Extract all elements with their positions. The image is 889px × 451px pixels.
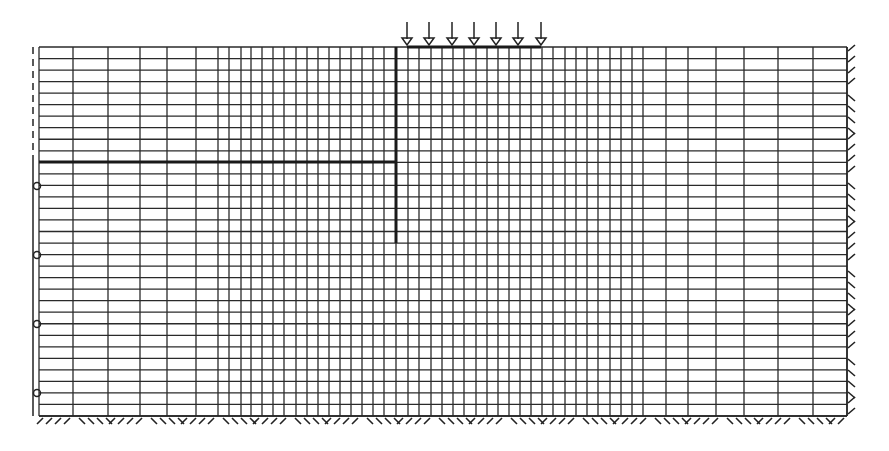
hatch-mark <box>241 418 247 424</box>
hatch-mark <box>848 106 855 112</box>
hatch-mark <box>848 45 855 51</box>
hatch-mark <box>478 418 484 424</box>
down-arrow-icon <box>447 22 457 45</box>
hatch-mark <box>559 418 565 424</box>
hatch-mark <box>848 397 855 403</box>
down-arrow-icon <box>469 22 479 45</box>
hatch-mark <box>448 418 454 424</box>
hatch-mark <box>313 418 319 424</box>
down-arrow-icon <box>491 22 501 45</box>
hatch-mark <box>745 418 751 424</box>
hatch-mark <box>848 232 855 238</box>
hatch-mark <box>46 418 52 424</box>
hatch-mark <box>622 418 628 424</box>
hatch-mark <box>848 370 855 376</box>
hatch-mark <box>848 282 855 288</box>
hatch-mark <box>520 418 526 424</box>
strip-load-arrows <box>402 22 546 47</box>
hatch-mark <box>848 205 855 211</box>
hatch-mark <box>694 418 700 424</box>
down-arrow-icon <box>513 22 523 45</box>
hatch-mark <box>848 155 855 161</box>
hatch-mark <box>151 418 157 424</box>
hatch-mark <box>664 418 670 424</box>
hatch-mark <box>848 117 855 123</box>
hatch-mark <box>601 418 607 424</box>
hatch-mark <box>367 418 373 424</box>
hatch-mark <box>848 78 855 84</box>
hatch-mark <box>304 418 310 424</box>
hatch-mark <box>736 418 742 424</box>
hatch-mark <box>529 418 535 424</box>
hatch-mark <box>496 418 502 424</box>
hatch-mark <box>352 418 358 424</box>
hatch-mark <box>703 418 709 424</box>
hatch-mark <box>848 221 855 227</box>
hatch-mark <box>511 418 517 424</box>
hatch-mark <box>415 418 421 424</box>
hatch-mark <box>848 309 855 315</box>
hatch-mark <box>848 342 855 348</box>
hatch-mark <box>848 293 855 299</box>
hatch-mark <box>848 243 855 249</box>
hatch-mark <box>848 408 855 414</box>
hatch-mark <box>766 418 772 424</box>
hatch-mark <box>848 183 855 189</box>
hatch-mark <box>271 418 277 424</box>
hatch-mark <box>631 418 637 424</box>
down-arrow-icon <box>536 22 546 45</box>
hatch-mark <box>295 418 301 424</box>
hatch-mark <box>160 418 166 424</box>
hatch-mark <box>37 418 43 424</box>
hatch-mark <box>232 418 238 424</box>
mesh-canvas <box>0 0 889 451</box>
hatch-mark <box>848 254 855 260</box>
hatch-mark <box>848 133 855 139</box>
hatch-mark <box>550 418 556 424</box>
hatch-mark <box>136 418 142 424</box>
hatch-mark <box>848 67 855 73</box>
hatch-mark <box>118 418 124 424</box>
hatch-mark <box>848 95 855 101</box>
hatch-mark <box>376 418 382 424</box>
hatch-mark <box>848 381 855 387</box>
hatch-mark <box>673 418 679 424</box>
hatch-mark <box>583 418 589 424</box>
hatch-mark <box>424 418 430 424</box>
hatch-mark <box>55 418 61 424</box>
hatch-mark <box>775 418 781 424</box>
hatch-mark <box>848 166 855 172</box>
hatch-mark <box>385 418 391 424</box>
right-fixed-hatching <box>847 45 855 416</box>
hatch-mark <box>88 418 94 424</box>
hatch-mark <box>223 418 229 424</box>
hatch-mark <box>848 144 855 150</box>
hatch-mark <box>848 271 855 277</box>
hatch-mark <box>592 418 598 424</box>
hatch-mark <box>799 418 805 424</box>
hatch-mark <box>97 418 103 424</box>
hatch-mark <box>568 418 574 424</box>
hatch-mark <box>848 331 855 337</box>
bottom-fixed-hatching <box>37 416 847 424</box>
hatch-mark <box>640 418 646 424</box>
hatch-mark <box>817 418 823 424</box>
hatch-mark <box>848 359 855 365</box>
hatch-mark <box>808 418 814 424</box>
down-arrow-icon <box>402 22 412 45</box>
hatch-mark <box>848 56 855 62</box>
hatch-mark <box>64 418 70 424</box>
hatch-mark <box>280 418 286 424</box>
fem-mesh-diagram <box>0 0 889 451</box>
hatch-mark <box>457 418 463 424</box>
hatch-mark <box>190 418 196 424</box>
hatch-mark <box>712 418 718 424</box>
hatch-mark <box>655 418 661 424</box>
hatch-mark <box>199 418 205 424</box>
hatch-mark <box>343 418 349 424</box>
hatch-mark <box>406 418 412 424</box>
hatch-mark <box>727 418 733 424</box>
hatch-mark <box>127 418 133 424</box>
hatch-mark <box>208 418 214 424</box>
hatch-mark <box>439 418 445 424</box>
